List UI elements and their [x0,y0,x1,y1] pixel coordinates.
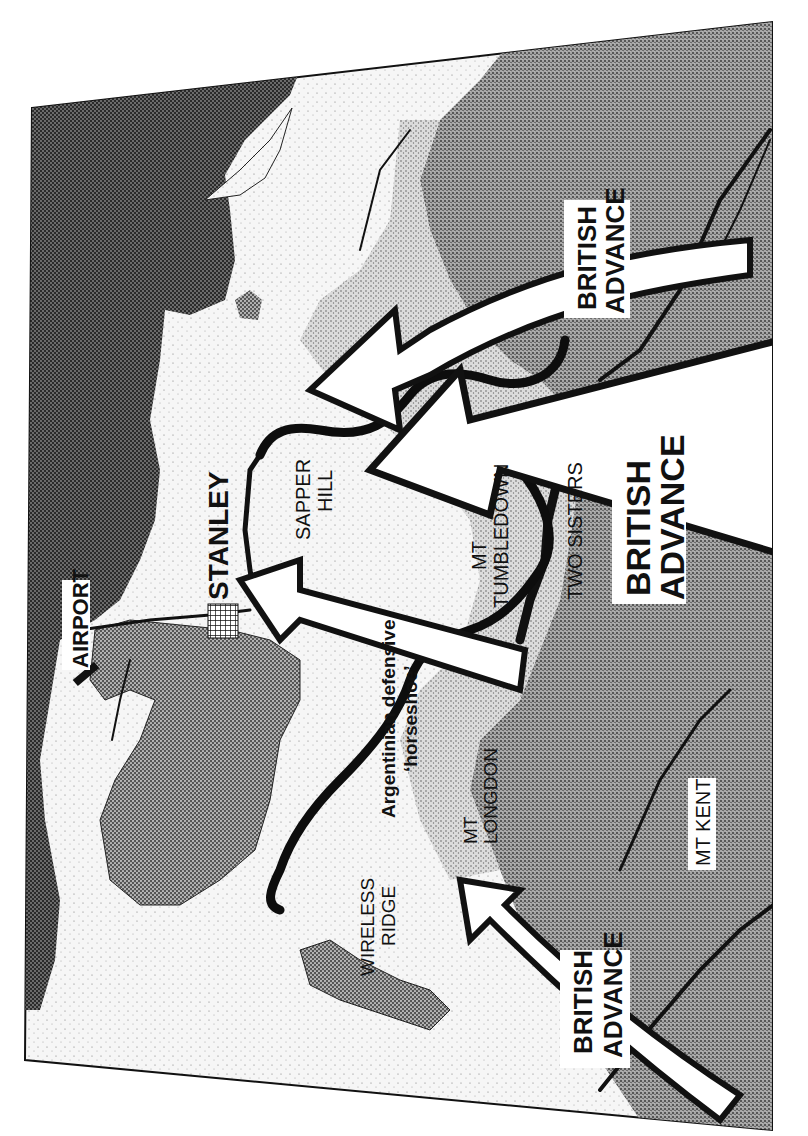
svg-text:ADVANCE: ADVANCE [598,931,628,1058]
svg-text:AIRPORT: AIRPORT [68,568,93,668]
svg-text:ADVANCE: ADVANCE [600,187,630,314]
svg-text:BRITISH: BRITISH [568,950,598,1054]
svg-text:LONGDON: LONGDON [480,748,501,844]
svg-text:BRITISH: BRITISH [619,460,657,596]
svg-text:HILL: HILL [314,470,336,512]
svg-text:SAPPER: SAPPER [292,459,314,540]
svg-text:RIDGE: RIDGE [378,886,399,946]
label-two-sisters: TWO SISTERS [564,462,586,600]
label-british-advance-south: BRITISH ADVANCE [560,931,630,1068]
town-icon [208,604,238,638]
svg-text:TUMBLEDOWN: TUMBLEDOWN [490,464,512,608]
svg-text:Argentinian defensive: Argentinian defensive [378,620,399,819]
label-mt-kent: MT KENT [688,778,716,870]
label-british-advance-centre: BRITISH ADVANCE [612,434,691,604]
label-british-advance-north: BRITISH ADVANCE [564,187,630,318]
svg-text:TWO SISTERS: TWO SISTERS [564,462,586,600]
svg-text:MT KENT: MT KENT [692,779,714,866]
svg-text:BRITISH: BRITISH [572,206,602,310]
svg-text:‘horseshoe’: ‘horseshoe’ [400,665,421,772]
svg-text:WIRELESS: WIRELESS [357,878,378,976]
svg-text:STANLEY: STANLEY [203,471,234,600]
label-stanley: STANLEY [203,471,234,600]
svg-text:ADVANCE: ADVANCE [653,434,691,600]
label-airport: AIRPORT [62,568,93,670]
svg-text:MT: MT [468,541,490,570]
battle-map: AIRPORT STANLEY SAPPER HILL MT TUMBLEDOW… [0,0,808,1136]
svg-text:MT: MT [460,816,481,844]
